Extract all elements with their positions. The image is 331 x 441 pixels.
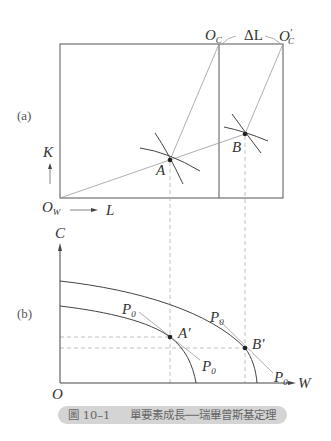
origin-capital-label: OC	[205, 28, 222, 45]
price-line-label-b-top: P0	[210, 310, 224, 327]
figure-title: 單要素成長──瑞畢曾斯基定理	[130, 408, 276, 422]
axis-c-label: C	[55, 226, 65, 241]
point-a-label: A	[156, 163, 165, 178]
point-b-prime-label: B′	[252, 337, 264, 352]
price-line-label-a-bottom: P0	[202, 359, 216, 376]
origin-worker-label: OW	[42, 200, 60, 217]
axis-l-label: L	[106, 203, 114, 218]
origin-capital-new-label: O′C	[279, 28, 294, 46]
dashed-guides	[60, 136, 245, 383]
point-b-label: B	[232, 140, 241, 155]
price-line-label-b-bottom: P0	[274, 370, 288, 387]
point-a-prime-label: A′	[178, 326, 190, 341]
figure-caption: 圖 10–1單要素成長──瑞畢曾斯基定理	[58, 406, 287, 424]
delta-l-label: ΔL	[244, 28, 263, 43]
price-line-label-a-top: P0	[122, 302, 136, 319]
figure-number: 圖 10–1	[68, 408, 110, 422]
origin-label: O	[52, 387, 63, 402]
panel-a-label: (a)	[17, 109, 31, 122]
axis-k-label: K	[43, 145, 53, 160]
axis-w-label: W	[298, 376, 311, 391]
ppf-chart	[58, 243, 296, 385]
panel-b-label: (b)	[17, 307, 32, 320]
edgeworth-box	[48, 36, 283, 212]
